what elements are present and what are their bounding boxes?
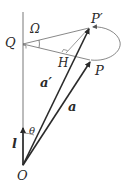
point-label-h: H (58, 57, 68, 69)
right-angle-mark-q (23, 45, 26, 49)
vector-label-l: l (12, 137, 17, 150)
a-prime-vector-arrow (23, 29, 89, 165)
point-label-p: P (95, 64, 104, 77)
point-label-p-prime: P′ (91, 12, 103, 25)
rotation-arc-arrow (91, 27, 120, 60)
p-prime-to-h-line (66, 28, 89, 53)
point-label-q: Q (5, 36, 16, 49)
a-vector-arrow (23, 62, 90, 165)
point-label-o: O (17, 169, 28, 182)
vector-label-a-prime: a′ (40, 76, 52, 89)
right-angle-mark-h (62, 50, 68, 53)
angle-label-omega: Ω (30, 23, 40, 35)
angle-label-theta: θ (29, 126, 35, 136)
rotation-diagram (0, 0, 130, 187)
vector-label-a: a (68, 100, 76, 113)
